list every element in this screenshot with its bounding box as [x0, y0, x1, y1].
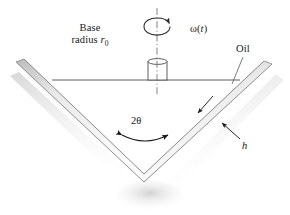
base-radius-subscript: 0 [105, 39, 109, 48]
thickness-label: h [242, 140, 247, 152]
angle-symbol: θ [136, 115, 141, 126]
figure-container: Base radius r0 ω(t) Oil 2θ h [0, 0, 290, 215]
rotating-shaft [148, 59, 167, 80]
shaft-top-ellipse [148, 59, 167, 65]
diagram-canvas [0, 0, 290, 215]
omega-label: ω(t) [190, 23, 207, 35]
angle-label: 2θ [131, 115, 142, 127]
omega-suffix: ) [204, 23, 208, 34]
omega-prefix: ω( [190, 23, 201, 34]
base-radius-label: Base radius r0 [57, 22, 123, 49]
oil-label: Oil [236, 43, 250, 55]
oil-body [52, 80, 240, 174]
vertex-shadow [116, 181, 184, 211]
base-radius-line1: Base [80, 22, 101, 33]
base-radius-line2: radius r0 [71, 34, 108, 45]
